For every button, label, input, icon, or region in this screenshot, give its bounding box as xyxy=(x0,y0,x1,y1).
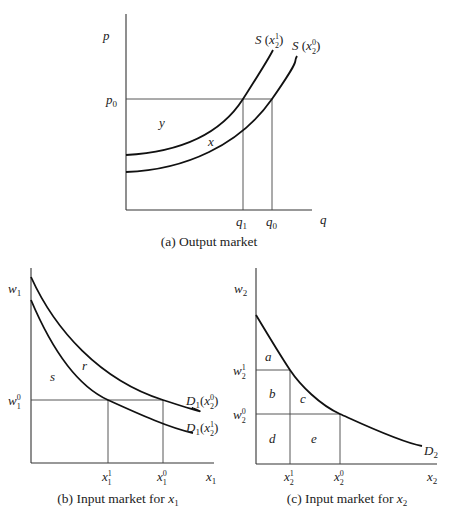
w1-0-label: w01 xyxy=(8,393,21,411)
caption-b: (b) Input market for x1 xyxy=(57,491,178,508)
region-e-label: e xyxy=(311,431,317,446)
w2-1-label: w12 xyxy=(233,363,246,381)
panel-input-market-x2: w2 w12 w02 x12 x02 x2 D2 a b c d e (c) I… xyxy=(233,268,438,508)
x2-0-label: x02 xyxy=(333,469,344,487)
y-axis-label-p: p xyxy=(102,28,110,43)
caption-c: (c) Input market for x2 xyxy=(287,491,408,508)
w2-0-label: w02 xyxy=(233,407,246,425)
curve-label-s-x2-0: S (x02) xyxy=(292,38,320,56)
demand-curve-d1-x2-0 xyxy=(31,277,200,411)
supply-curve-x2-1 xyxy=(126,50,273,155)
region-s-label: s xyxy=(50,369,55,384)
q1-label: q1 xyxy=(236,214,247,231)
q0-label: q0 xyxy=(266,214,278,231)
region-c-label: c xyxy=(300,391,306,406)
caption-a: (a) Output market xyxy=(161,234,258,249)
x-axis-label-x2: x2 xyxy=(426,469,437,486)
region-d-label: d xyxy=(269,431,276,446)
region-a-label: a xyxy=(265,349,272,364)
panel-output-market: p q p0 q1 q0 S (x12) S (x02) y x (a) Out… xyxy=(102,14,327,249)
region-b-label: b xyxy=(269,386,276,401)
region-r-label: r xyxy=(82,358,88,373)
x-axis-label-x1: x1 xyxy=(205,469,216,486)
x-axis-label-q: q xyxy=(320,212,327,227)
curve-label-d1-x2-1: D1(x12) xyxy=(185,420,218,438)
y-axis-label-w2: w2 xyxy=(234,281,247,298)
curve-label-s-x2-1: S (x12) xyxy=(255,32,283,50)
supply-curve-x2-0 xyxy=(126,56,297,172)
x1-0-label: x01 xyxy=(156,469,167,487)
panel-input-market-x1: w1 w01 x11 x01 x1 D1(x02) D1(x12) s r (b… xyxy=(8,268,218,508)
y-axis-label-w1: w1 xyxy=(8,281,21,298)
region-x-label: x xyxy=(207,134,214,149)
demand-curve-d2 xyxy=(256,315,422,446)
curve-label-d2: D2 xyxy=(423,443,438,460)
x2-1-label: x12 xyxy=(283,469,294,487)
p0-label: p0 xyxy=(105,92,118,109)
figure: p q p0 q1 q0 S (x12) S (x02) y x (a) Out… xyxy=(0,0,452,518)
x1-1-label: x11 xyxy=(101,469,112,487)
region-y-label: y xyxy=(157,115,165,130)
